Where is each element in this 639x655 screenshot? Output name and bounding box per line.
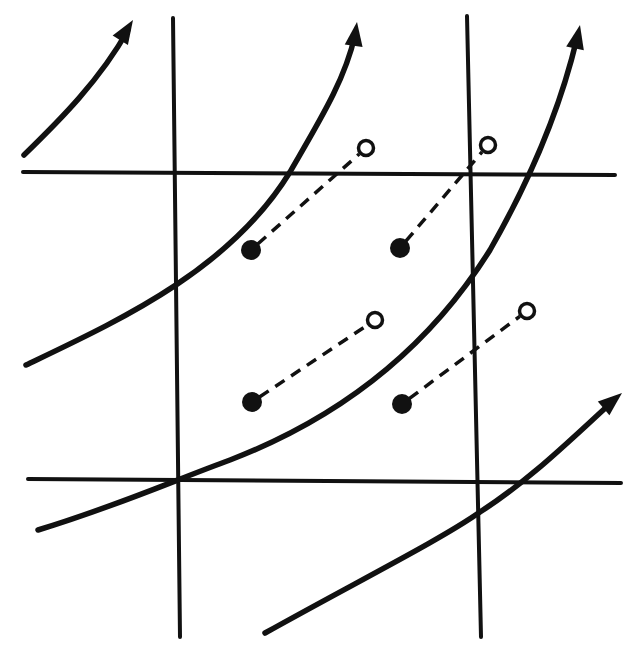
open-circle-icon — [520, 304, 535, 319]
dashed-path-line — [259, 325, 367, 397]
streamline-4 — [265, 386, 628, 633]
grid — [23, 16, 621, 637]
trajectory-3 — [242, 313, 383, 413]
filled-dot-icon — [390, 238, 410, 258]
streamline-grid-diagram — [0, 0, 639, 655]
trajectory-1 — [241, 141, 374, 261]
open-circle-icon — [368, 313, 383, 328]
trajectory-2 — [390, 138, 496, 259]
grid-line-vertical-1 — [173, 18, 180, 637]
grid-line-vertical-2 — [467, 16, 481, 637]
arrowhead-icon — [113, 15, 141, 45]
streamline-3 — [38, 23, 589, 530]
arrowhead-icon — [345, 21, 366, 47]
trajectory-4 — [392, 304, 535, 415]
streamline-1-curve — [24, 30, 128, 155]
filled-dot-icon — [241, 240, 261, 260]
open-circle-icon — [359, 141, 374, 156]
streamline-1 — [24, 15, 141, 155]
streamline-3-curve — [38, 38, 577, 530]
open-circle-icon — [481, 138, 496, 153]
filled-dot-icon — [392, 394, 412, 414]
arrowhead-icon — [566, 23, 589, 50]
streamlines — [24, 15, 628, 633]
grid-line-horizontal-2 — [28, 479, 621, 483]
streamline-4-curve — [265, 402, 612, 633]
filled-dot-icon — [242, 392, 262, 412]
